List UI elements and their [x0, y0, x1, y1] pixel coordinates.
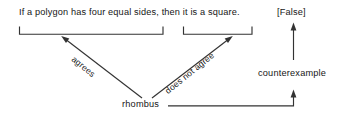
- counterexample-label: counterexample: [258, 68, 326, 78]
- diagram-lines: [0, 0, 340, 123]
- counterexample-arrow-upper: [291, 23, 297, 61]
- counterexample-arrow-lower: [168, 90, 296, 106]
- logic-diagram: If a polygon has four equal sides, then …: [0, 0, 340, 123]
- example-label-rhombus: rhombus: [122, 99, 159, 109]
- conclusion-bracket: [184, 27, 253, 35]
- hypothesis-bracket: [20, 27, 164, 35]
- agrees-arrow: [61, 36, 142, 98]
